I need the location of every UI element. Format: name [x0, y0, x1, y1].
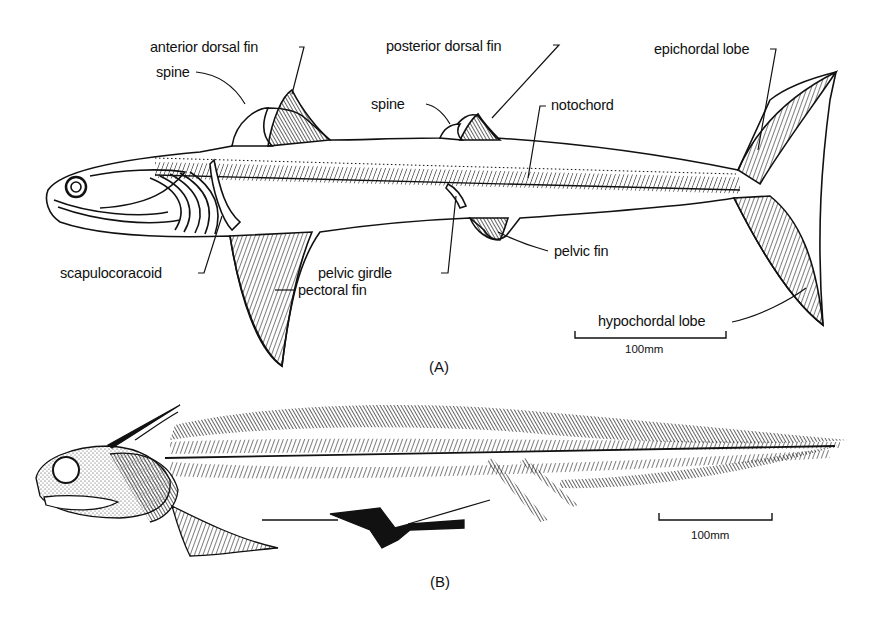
label-hypochordal-lobe: hypochordal lobe — [598, 314, 705, 329]
fish-a — [47, 72, 837, 366]
label-spine-anterior: spine — [156, 65, 190, 80]
label-pelvic-fin: pelvic fin — [554, 244, 608, 259]
label-spine-posterior: spine — [371, 97, 405, 112]
scale-bar-b-label: 100mm — [691, 530, 729, 542]
label-notochord: notochord — [551, 98, 614, 113]
scale-bar-a-label: 100mm — [625, 344, 663, 356]
label-pelvic-girdle: pelvic girdle — [318, 266, 392, 281]
scale-bar-b — [659, 513, 772, 520]
label-epichordal-lobe: epichordal lobe — [654, 42, 749, 57]
scale-bar-a — [575, 331, 726, 338]
label-anterior-dorsal-fin: anterior dorsal fin — [150, 40, 258, 55]
label-pectoral-fin: pectoral fin — [298, 283, 367, 298]
label-scapulocoracoid: scapulocoracoid — [60, 266, 162, 281]
panel-label-a: (A) — [429, 359, 449, 374]
fish-illustrations — [0, 0, 883, 622]
panel-label-b: (B) — [430, 574, 450, 589]
label-posterior-dorsal-fin: posterior dorsal fin — [386, 39, 501, 54]
